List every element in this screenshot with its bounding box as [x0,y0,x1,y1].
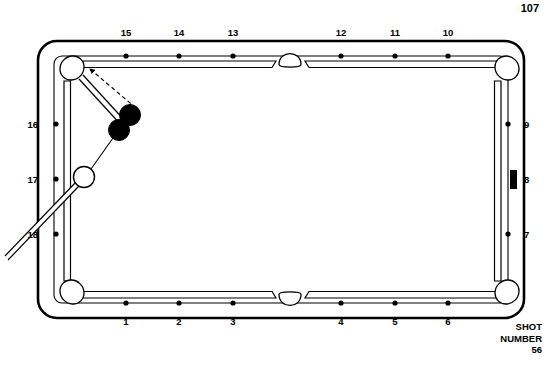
diamond-bottom-5 [392,300,397,305]
shot-caption-line-2: NUMBER [470,333,542,345]
cushion-bottom-left [83,292,276,299]
diamond-top-11 [392,53,397,58]
diamond-top-14 [176,53,181,58]
diamond-label-right-7: 7 [524,230,529,240]
diamond-bottom-1 [123,300,128,305]
diamond-left-18 [53,231,58,236]
diamond-label-top-14: 14 [174,28,185,38]
diamond-label-top-11: 11 [390,28,400,38]
table-frame [38,41,524,318]
diamond-label-left-18: 18 [27,230,38,240]
diamond-bottom-6 [445,300,450,305]
diamond-label-bottom-1: 1 [123,317,128,327]
cushion-left [64,81,71,281]
cushion-top-left [83,61,276,68]
diamond-top-15 [123,53,128,58]
diamond-left-16 [53,121,58,126]
diamond-top-12 [338,53,343,58]
diamond-label-bottom-2: 2 [176,317,181,327]
diamond-label-top-12: 12 [336,28,347,38]
object-ball-2 [109,120,130,141]
pocket-bottom-side [279,292,301,306]
diamond-label-top-13: 13 [228,28,239,38]
diamond-top-10 [445,53,450,58]
diamond-label-bottom-6: 6 [445,317,450,327]
diamond-label-left-16: 16 [27,120,38,130]
cushion-bottom-right [305,292,497,299]
diamond-left-17 [53,176,58,181]
cushion-top-right [305,61,497,68]
pocket-top-side [279,54,301,68]
diamond-label-bottom-5: 5 [392,317,397,327]
diamond-top-13 [230,53,235,58]
diamond-label-right-9: 9 [524,120,529,130]
diamond-label-top-10: 10 [443,28,454,38]
billiards-diagram-page: 107 [0,0,551,366]
shot-caption-line-3: 56 [470,344,542,356]
diamond-label-right-8: 8 [524,175,529,185]
pool-table-diagram [0,0,551,366]
diamond-label-left-17: 17 [27,175,38,185]
cue-ball [74,167,95,188]
shot-number-caption: SHOT NUMBER 56 [470,321,542,356]
diamond-right-7 [505,231,510,236]
diamond-right-9 [505,121,510,126]
diamond-bottom-4 [338,300,343,305]
diamond-bottom-3 [230,300,235,305]
diamond-bottom-2 [176,300,181,305]
diamond-label-bottom-4: 4 [338,317,343,327]
rail-marker-8-icon [510,170,517,189]
diamond-label-top-15: 15 [121,28,132,38]
shot-caption-line-1: SHOT [470,321,542,333]
cushion-right [495,81,502,281]
diamond-label-bottom-3: 3 [230,317,235,327]
table-rail-inner-edge [54,56,508,303]
